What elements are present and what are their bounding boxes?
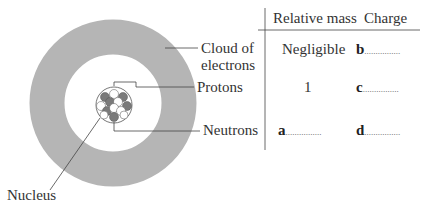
answer-blank-a[interactable]: ................ [286, 127, 322, 137]
cloud-label-line2: electrons [201, 57, 255, 73]
header-relative-mass: Relative mass [273, 10, 357, 27]
cell-proton-charge: c................ [356, 79, 399, 96]
cell-neutron-charge: d................ [356, 122, 400, 139]
nucleus-label: Nucleus [7, 187, 56, 204]
cell-neutron-mass: a................ [278, 122, 322, 139]
answer-letter-a: a [278, 122, 286, 138]
atom-diagram [0, 0, 432, 211]
neutrons-label: Neutrons [203, 122, 258, 139]
cell-proton-mass: 1 [304, 79, 312, 96]
protons-label: Protons [197, 79, 243, 96]
nucleus [96, 87, 132, 123]
cell-electron-charge: b................ [356, 41, 400, 58]
cloud-label: Cloud of electrons [201, 40, 255, 74]
answer-blank-b[interactable]: ................ [364, 46, 400, 56]
cloud-label-line1: Cloud of [201, 40, 254, 56]
cell-electron-mass: Negligible [282, 41, 345, 58]
answer-letter-c: c [356, 79, 363, 95]
header-charge: Charge [364, 10, 407, 27]
answer-blank-d[interactable]: ................ [364, 127, 400, 137]
answer-blank-c[interactable]: ................ [363, 84, 399, 94]
